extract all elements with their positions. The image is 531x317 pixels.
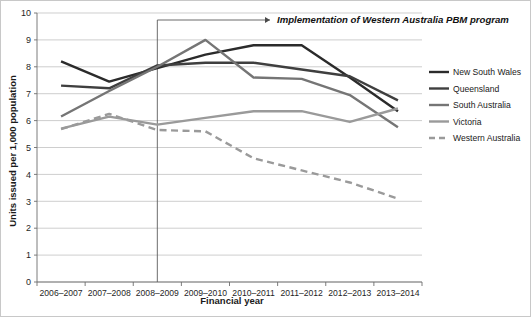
legend-label-queensland: Queensland <box>453 84 500 94</box>
y-axis-ticks: 012345678910 <box>21 8 37 287</box>
y-tick-label: 0 <box>26 277 31 287</box>
y-tick-label: 3 <box>26 197 31 207</box>
x-tick-label: 2007–2008 <box>88 288 131 298</box>
data-series <box>61 40 398 199</box>
legend-label-victoria: Victoria <box>453 117 482 127</box>
y-tick-label: 2 <box>26 223 31 233</box>
legend-label-western-australia: Western Australia <box>453 133 520 143</box>
y-tick-label: 8 <box>26 62 31 72</box>
y-axis-label: Units issued per 1,000 population <box>7 75 18 227</box>
chart-legend: New South WalesQueenslandSouth Australia… <box>429 67 521 143</box>
annotation-label: Implementation of Western Australia PBM … <box>277 14 509 25</box>
y-tick-label: 9 <box>26 35 31 45</box>
x-tick-label: 2011–2012 <box>280 288 323 298</box>
y-tick-label: 1 <box>26 250 31 260</box>
gridlines <box>37 13 422 282</box>
y-tick-label: 7 <box>26 89 31 99</box>
legend-label-south-australia: South Australia <box>453 100 511 110</box>
annotation-arrow-icon <box>265 17 270 23</box>
series-line-new-south-wales <box>61 45 398 111</box>
x-tick-label: 2013–2014 <box>376 288 419 298</box>
y-tick-label: 6 <box>26 116 31 126</box>
y-tick-label: 4 <box>26 170 31 180</box>
x-tick-label: 2006–2007 <box>40 288 83 298</box>
y-tick-label: 5 <box>26 143 31 153</box>
legend-label-new-south-wales: New South Wales <box>453 67 521 77</box>
chart-figure: 012345678910 2006–20072007–20082008–2009… <box>0 0 531 317</box>
x-axis-label: Financial year <box>200 295 264 306</box>
line-chart: 012345678910 2006–20072007–20082008–2009… <box>1 1 531 317</box>
x-tick-label: 2008–2009 <box>136 288 179 298</box>
series-line-western-australia <box>61 114 398 199</box>
series-line-victoria <box>61 109 398 129</box>
x-tick-label: 2012–2013 <box>328 288 371 298</box>
y-tick-label: 10 <box>21 8 31 18</box>
